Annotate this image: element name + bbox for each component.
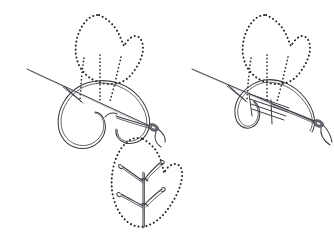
- fabric-background: [0, 0, 334, 248]
- diagram-canvas: [0, 0, 334, 248]
- fly-stitch-leaf-diagram: [0, 0, 334, 248]
